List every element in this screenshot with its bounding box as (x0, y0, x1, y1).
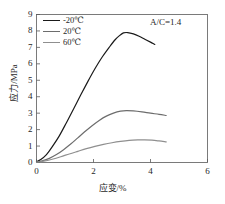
y-tick-label: 4 (21, 92, 33, 101)
y-tick-label: 2 (21, 125, 33, 134)
y-tick-label: 8 (21, 26, 33, 35)
y-tick-label: 6 (21, 59, 33, 68)
legend-item: 60℃ (43, 37, 84, 47)
y-tick-label: 3 (21, 109, 33, 118)
legend-item-label: 60℃ (63, 38, 81, 47)
x-axis-title: 应变/% (0, 183, 225, 193)
series-line (37, 111, 167, 162)
y-tick-label: 1 (21, 142, 33, 151)
legend-item-label: -20℃ (63, 16, 84, 25)
legend: -20℃ 20℃ 60℃ (43, 15, 84, 48)
legend-item: -20℃ (43, 15, 84, 25)
legend-item-label: 20℃ (63, 27, 81, 36)
legend-swatch-line (43, 42, 60, 43)
series-line (37, 140, 167, 162)
y-tick-label: 5 (21, 76, 33, 85)
y-axis-title: 应力/MPa (9, 53, 19, 113)
chart-annotation: A/C=1.4 (150, 17, 181, 27)
legend-swatch-line (43, 31, 60, 32)
x-tick-label: 0 (30, 167, 44, 176)
x-tick-label: 2 (87, 167, 101, 176)
legend-item: 20℃ (43, 26, 84, 36)
series-line (37, 32, 155, 161)
legend-swatch-line (43, 20, 60, 21)
series-layer (37, 32, 167, 162)
y-tick-label: 7 (21, 43, 33, 52)
x-tick-label: 4 (144, 167, 158, 176)
y-tick-label: 9 (21, 10, 33, 19)
stress-strain-chart: 0123456789 0246 应力/MPa 应变/% -20℃ 20℃ 60℃… (0, 0, 225, 204)
x-tick-label: 6 (201, 167, 215, 176)
